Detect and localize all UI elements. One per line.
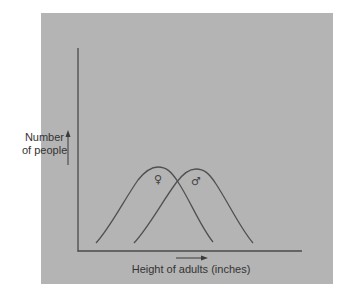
x-axis-label: Height of adults (inches) bbox=[130, 263, 252, 275]
female-symbol-icon: ♀ bbox=[154, 174, 162, 185]
male-symbol-icon: ♂ bbox=[191, 176, 201, 187]
y-axis-label: Number of people bbox=[22, 131, 64, 157]
x-arrow-icon bbox=[176, 256, 208, 261]
y-axis-label-line2: of people bbox=[22, 144, 64, 157]
y-axis-label-line1: Number bbox=[22, 131, 64, 144]
